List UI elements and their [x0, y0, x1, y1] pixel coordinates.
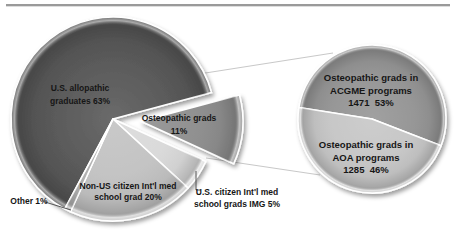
chart-area: U.S. allopathic graduates 63% Osteopathi… [0, 0, 455, 236]
main-pie [11, 17, 243, 221]
secondary-pie [298, 45, 446, 193]
pie-of-pie-chart [0, 0, 455, 236]
